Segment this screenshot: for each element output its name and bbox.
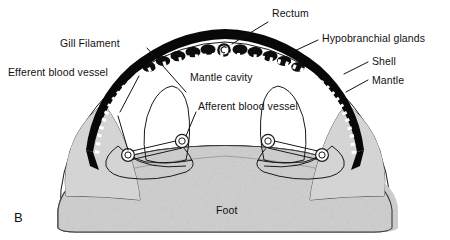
label-efferent-blood-vessel: Efferent blood vessel bbox=[8, 66, 108, 78]
label-mantle: Mantle bbox=[372, 74, 404, 86]
efferent-vessel-left bbox=[122, 149, 135, 162]
diagram-figure: Gill Filament Efferent blood vessel Rect… bbox=[0, 0, 450, 240]
panel-label-b: B bbox=[14, 210, 23, 225]
label-mantle-cavity: Mantle cavity bbox=[190, 71, 253, 83]
label-afferent-blood-vessel: Afferent blood vessel bbox=[198, 100, 298, 112]
label-rectum: Rectum bbox=[272, 7, 309, 19]
mantle-band bbox=[95, 42, 356, 156]
label-hypobranchial-glands: Hypobranchial glands bbox=[322, 32, 425, 44]
efferent-vessel-right bbox=[316, 149, 329, 162]
afferent-vessel-left bbox=[175, 134, 188, 147]
label-shell: Shell bbox=[372, 55, 396, 67]
label-foot: Foot bbox=[216, 204, 237, 216]
afferent-vessel-right bbox=[261, 134, 274, 147]
label-gill-filament: Gill Filament bbox=[60, 37, 120, 49]
